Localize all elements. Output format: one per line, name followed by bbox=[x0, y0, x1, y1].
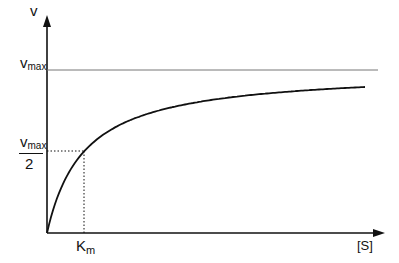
x-axis-label: [S] bbox=[357, 238, 373, 253]
michaelis-menten-chart: v vmax vmax 2 Km [S] bbox=[0, 0, 399, 263]
half-vmax-denominator: 2 bbox=[25, 155, 33, 172]
half-vmax-sub: max bbox=[28, 140, 47, 151]
vmax-tick-label: vmax bbox=[20, 54, 46, 72]
michaelis-menten-curve bbox=[47, 87, 365, 233]
y-axis-label: v bbox=[30, 2, 38, 19]
km-tick-label: Km bbox=[76, 237, 95, 256]
km-main: K bbox=[76, 237, 86, 254]
half-vmax-numerator: vmax bbox=[20, 133, 46, 151]
km-sub: m bbox=[86, 244, 95, 256]
plot-area bbox=[0, 0, 399, 263]
x-axis-arrow-icon bbox=[373, 229, 385, 237]
half-vmax-main: v bbox=[20, 133, 28, 150]
fraction-bar bbox=[19, 153, 43, 154]
vmax-sub: max bbox=[28, 61, 47, 72]
vmax-main: v bbox=[20, 54, 28, 71]
y-axis-arrow-icon bbox=[43, 15, 51, 27]
